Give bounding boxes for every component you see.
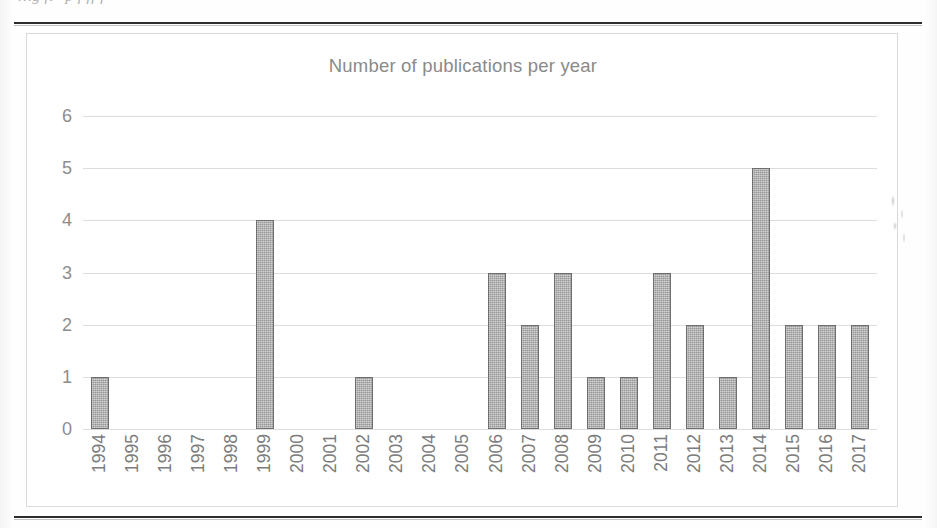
bar-slot bbox=[447, 116, 480, 429]
x-axis-tick-slot: 1996 bbox=[149, 430, 182, 508]
bar-slot bbox=[844, 116, 877, 429]
x-axis-labels: 1994199519961997199819992000200120022003… bbox=[83, 430, 877, 508]
x-axis-tick-slot: 2007 bbox=[513, 430, 546, 508]
x-axis-tick-label: 1999 bbox=[256, 434, 274, 473]
bar-slot bbox=[348, 116, 381, 429]
x-axis-tick-label: 2015 bbox=[786, 434, 804, 473]
x-axis-tick-label: 1998 bbox=[223, 434, 241, 473]
x-axis-tick-label: 2002 bbox=[355, 434, 373, 473]
x-axis-tick-label: 2006 bbox=[488, 434, 506, 473]
x-axis-tick-slot: 2014 bbox=[745, 430, 778, 508]
x-axis-tick-slot: 2015 bbox=[778, 430, 811, 508]
bar bbox=[752, 168, 770, 429]
x-axis-tick-slot: 2011 bbox=[645, 430, 678, 508]
document-rule-top-hairline bbox=[14, 25, 922, 26]
document-rule-bottom-hairline bbox=[14, 519, 922, 520]
y-axis-tick-label: 3 bbox=[62, 264, 72, 282]
x-axis-tick-slot: 2002 bbox=[348, 430, 381, 508]
bar-slot bbox=[645, 116, 678, 429]
plot-area: 6543210 bbox=[83, 116, 877, 429]
bar-slot bbox=[811, 116, 844, 429]
scan-edge-shadow-right bbox=[924, 0, 937, 528]
bar-slot bbox=[381, 116, 414, 429]
scan-edge-shadow-left bbox=[0, 0, 13, 528]
x-axis-tick-label: 2012 bbox=[686, 434, 704, 473]
bar-slot bbox=[282, 116, 315, 429]
x-axis-tick-slot: 2000 bbox=[282, 430, 315, 508]
bar bbox=[620, 377, 638, 429]
x-axis-tick-label: 2005 bbox=[455, 434, 473, 473]
bar-slot bbox=[546, 116, 579, 429]
x-axis-tick-label: 1996 bbox=[157, 434, 175, 473]
bar bbox=[256, 220, 274, 429]
bar bbox=[851, 325, 869, 429]
x-axis-tick-label: 2001 bbox=[322, 434, 340, 473]
bar bbox=[355, 377, 373, 429]
x-axis-tick-slot: 1994 bbox=[83, 430, 116, 508]
x-axis-tick-slot: 2005 bbox=[447, 430, 480, 508]
x-axis-tick-slot: 2004 bbox=[414, 430, 447, 508]
bar-slot bbox=[83, 116, 116, 429]
x-axis-tick-slot: 2001 bbox=[315, 430, 348, 508]
bar bbox=[587, 377, 605, 429]
x-axis-tick-label: 2004 bbox=[422, 434, 440, 473]
document-caption-text: …g fi "p f ff f bbox=[18, 0, 918, 5]
document-rule-top bbox=[14, 22, 922, 24]
bar-slot bbox=[414, 116, 447, 429]
bar-slot bbox=[679, 116, 712, 429]
x-axis-tick-label: 2008 bbox=[554, 434, 572, 473]
bar bbox=[653, 273, 671, 430]
x-axis-tick-slot: 1999 bbox=[248, 430, 281, 508]
x-axis-tick-slot: 2008 bbox=[546, 430, 579, 508]
bar-slot bbox=[745, 116, 778, 429]
bar-slot bbox=[579, 116, 612, 429]
y-axis-tick-label: 6 bbox=[62, 107, 72, 125]
bar-slot bbox=[315, 116, 348, 429]
x-axis-tick-label: 1995 bbox=[124, 434, 142, 473]
x-axis-tick-slot: 2009 bbox=[579, 430, 612, 508]
x-axis-tick-slot: 2012 bbox=[679, 430, 712, 508]
x-axis-tick-label: 2003 bbox=[389, 434, 407, 473]
x-axis-tick-label: 2009 bbox=[587, 434, 605, 473]
x-axis-tick-slot: 2016 bbox=[811, 430, 844, 508]
bar bbox=[818, 325, 836, 429]
bar bbox=[719, 377, 737, 429]
document-rule-bottom bbox=[14, 516, 922, 518]
x-axis-tick-slot: 1998 bbox=[215, 430, 248, 508]
x-axis-tick-label: 2014 bbox=[752, 434, 770, 473]
bar-slot bbox=[480, 116, 513, 429]
scanned-page: …g fi "p f ff f Number of publications p… bbox=[0, 0, 937, 528]
bar bbox=[91, 377, 109, 429]
bar bbox=[488, 273, 506, 430]
x-axis-tick-label: 2013 bbox=[719, 434, 737, 473]
x-axis-tick-slot: 1997 bbox=[182, 430, 215, 508]
chart-title: Number of publications per year bbox=[27, 55, 899, 77]
bar bbox=[521, 325, 539, 429]
scan-artifact-smudge bbox=[886, 192, 912, 248]
bar bbox=[554, 273, 572, 430]
x-axis-tick-label: 2000 bbox=[289, 434, 307, 473]
x-axis-tick-label: 1994 bbox=[91, 434, 109, 473]
y-axis-tick-label: 5 bbox=[62, 159, 72, 177]
chart-container: Number of publications per year 6543210 … bbox=[26, 33, 898, 507]
y-axis-tick-label: 1 bbox=[62, 368, 72, 386]
bar-slot bbox=[712, 116, 745, 429]
bar-slot bbox=[248, 116, 281, 429]
bar bbox=[686, 325, 704, 429]
document-caption-strip: …g fi "p f ff f bbox=[0, 0, 937, 16]
x-axis-tick-slot: 2017 bbox=[844, 430, 877, 508]
x-axis-tick-label: 2011 bbox=[653, 434, 671, 472]
x-axis-tick-label: 2007 bbox=[521, 434, 539, 473]
bar-slot bbox=[116, 116, 149, 429]
y-axis-tick-label: 2 bbox=[62, 316, 72, 334]
x-axis-tick-slot: 2006 bbox=[480, 430, 513, 508]
x-axis-tick-slot: 2003 bbox=[381, 430, 414, 508]
x-axis-tick-label: 1997 bbox=[190, 434, 208, 473]
bar-slot bbox=[149, 116, 182, 429]
x-axis-tick-label: 2010 bbox=[620, 434, 638, 473]
x-axis-tick-slot: 2010 bbox=[612, 430, 645, 508]
x-axis-tick-label: 2016 bbox=[819, 434, 837, 473]
y-axis-tick-label: 4 bbox=[62, 211, 72, 229]
y-axis-tick-label: 0 bbox=[62, 420, 72, 438]
bar bbox=[785, 325, 803, 429]
